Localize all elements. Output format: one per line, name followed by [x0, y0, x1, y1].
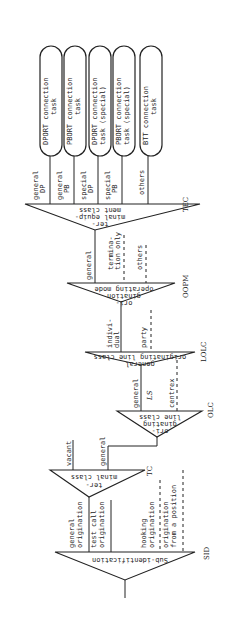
olc-label: line classginatingori- — [139, 413, 181, 435]
lolc-node: originating line classgeneral LOLC indiv… — [85, 302, 208, 368]
tec-abbr: TEC — [182, 197, 190, 212]
tec-branch-others: others — [138, 170, 146, 195]
task-btt: BTT connectiontask — [140, 46, 162, 156]
sid-branch-general-origination: generalorigination — [68, 502, 84, 548]
tec-node: ment classminal equip-ter- TEC generalDP… — [25, 155, 200, 230]
task-pbort-special: PBORT connectiontask (special) — [113, 46, 135, 156]
oopm-node: operating modeginationori- OOPM general … — [67, 230, 190, 307]
sid-branch-test-call: test callorigination — [90, 502, 106, 548]
sid-branch-hooking: hookingorigination — [140, 502, 156, 548]
lolc-branch-individual: indivi-dual — [106, 318, 121, 348]
sid-branch-position: originationfrom a position — [162, 485, 178, 548]
oopm-branch-general: general — [85, 250, 93, 280]
svg-text:PBORT connectiontask (special): PBORT connectiontask (special) — [115, 78, 131, 145]
task-boxes: DPORT connectiontask PBORT connectiontas… — [40, 46, 162, 156]
task-dport: DPORT connectiontask — [40, 46, 62, 156]
olc-branch-centrex: centrex — [168, 378, 176, 408]
lolc-label: originating line classgeneral — [94, 353, 187, 368]
oopm-branch-others: others — [136, 245, 144, 270]
olc-node: line classginatingori- OLC general LS ce… — [117, 360, 215, 437]
olc-branch-general: general — [132, 378, 140, 408]
tec-branch-special-pb: specialPB — [104, 170, 119, 200]
tec-branch-special-dp: specialDP — [80, 170, 95, 200]
lolc-abbr: LOLC — [200, 342, 208, 362]
task-dport-special: DPORT connectiontask (special) — [89, 46, 111, 156]
lolc-branch-party: party — [140, 327, 148, 348]
tc-branch-vacant: vacant — [65, 441, 73, 466]
tec-branch-general-pb: generalPB — [56, 170, 71, 200]
sid-abbr: SID — [203, 546, 211, 560]
olc-branch-ls: LS — [146, 390, 154, 401]
oopm-abbr: OOPM — [182, 275, 190, 298]
task-pbort: PBORT connectiontask — [64, 46, 86, 156]
tree-diagram: Sub-identification SID generaloriginatio… — [0, 0, 227, 617]
olc-abbr: OLC — [207, 402, 215, 418]
sid-label: Sub-identification — [92, 556, 168, 564]
oopm-branch-termination-only: termina-tion only — [107, 232, 122, 270]
tc-abbr: TC — [146, 466, 154, 476]
tc-branch-general: general — [99, 436, 107, 466]
tc-node: minal classter- TC vacant general — [50, 436, 157, 497]
tec-branch-general-dp: generalDP — [32, 170, 47, 200]
svg-text:DPORT connectiontask (special): DPORT connectiontask (special) — [91, 78, 107, 145]
